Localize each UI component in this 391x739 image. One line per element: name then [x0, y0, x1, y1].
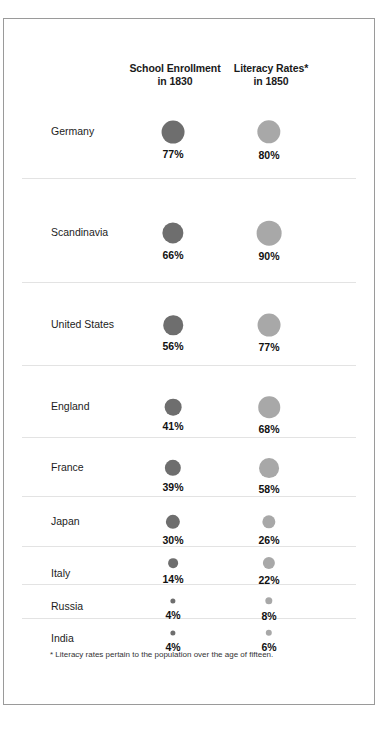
bubble-value-enrollment: 39%: [162, 481, 183, 493]
row-label: Germany: [51, 125, 94, 137]
row-label: France: [51, 461, 84, 473]
bubble-enrollment: [163, 315, 183, 335]
bubble-enrollment: [170, 630, 175, 635]
bubble-enrollment: [165, 460, 181, 476]
bubble-value-enrollment: 30%: [162, 534, 183, 546]
bubble-value-enrollment: 56%: [162, 340, 183, 352]
bubble-value-literacy: 90%: [258, 250, 279, 262]
bubble-enrollment: [166, 515, 180, 529]
row-divider: [22, 546, 356, 547]
row-divider: [22, 365, 356, 366]
column-header-enrollment-line1: School Enrollment: [129, 62, 220, 74]
bubble-value-literacy: 8%: [261, 610, 276, 622]
row-divider: [22, 584, 356, 585]
row-divider: [22, 282, 356, 283]
row-divider: [22, 437, 356, 438]
bubble-enrollment: [170, 598, 175, 603]
bubble-value-enrollment: 14%: [162, 573, 183, 585]
column-headers: School Enrollment in 1830 Literacy Rates…: [4, 62, 374, 96]
row-divider: [22, 618, 356, 619]
bubble-value-literacy: 22%: [258, 574, 279, 586]
bubble-value-enrollment: 4%: [165, 609, 180, 621]
bubble-literacy: [259, 458, 279, 478]
row-label: Russia: [51, 600, 83, 612]
row-divider: [22, 178, 356, 179]
bubble-value-enrollment: 77%: [162, 148, 183, 160]
chart-frame: School Enrollment in 1830 Literacy Rates…: [3, 18, 375, 705]
bubble-value-literacy: 68%: [258, 423, 279, 435]
bubble-value-literacy: 58%: [258, 483, 279, 495]
bubble-literacy: [266, 630, 272, 636]
bubble-value-literacy: 26%: [258, 534, 279, 546]
column-header-literacy-line2: in 1850: [216, 75, 326, 88]
row-label: England: [51, 400, 90, 412]
bubble-literacy: [262, 515, 275, 528]
bubble-literacy: [258, 396, 280, 418]
column-header-literacy: Literacy Rates* in 1850: [216, 62, 326, 88]
bubble-value-enrollment: 66%: [162, 249, 183, 261]
bubble-literacy: [263, 557, 275, 569]
bubble-literacy: [258, 314, 281, 337]
row-label: Italy: [51, 567, 70, 579]
row-label: Japan: [51, 515, 80, 527]
row-label: United States: [51, 318, 114, 330]
bubble-value-literacy: 77%: [258, 341, 279, 353]
bubble-literacy: [257, 120, 280, 143]
bubble-literacy: [265, 597, 272, 604]
bubble-enrollment: [162, 222, 183, 243]
bubble-value-literacy: 80%: [258, 149, 279, 161]
footnote: * Literacy rates pertain to the populati…: [50, 650, 273, 659]
bubble-enrollment: [162, 121, 185, 144]
column-header-literacy-line1: Literacy Rates*: [234, 62, 308, 74]
bubble-value-enrollment: 41%: [162, 420, 183, 432]
bubble-literacy: [257, 221, 282, 246]
bubble-enrollment: [165, 399, 182, 416]
row-label: India: [51, 632, 74, 644]
row-label: Scandinavia: [51, 226, 108, 238]
bubble-enrollment: [168, 558, 178, 568]
row-divider: [22, 496, 356, 497]
